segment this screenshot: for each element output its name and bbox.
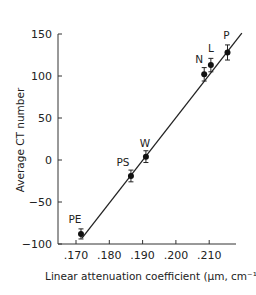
point-label: N bbox=[195, 53, 203, 65]
y-tick-label: 0 bbox=[45, 154, 52, 167]
data-point-n: N bbox=[195, 53, 207, 81]
x-tick-label: .190 bbox=[130, 249, 155, 262]
x-tick-label: .170 bbox=[64, 249, 89, 262]
point-marker bbox=[208, 62, 214, 68]
x-axis-title: Linear attenuation coefficient (µm, cm⁻¹… bbox=[45, 270, 256, 282]
data-point-l: L bbox=[208, 42, 214, 72]
x-tick-label: .200 bbox=[164, 249, 189, 262]
data-point-w: W bbox=[140, 137, 151, 163]
y-tick-label: 150 bbox=[31, 28, 52, 41]
data-point-pe: PE bbox=[69, 213, 84, 239]
point-marker bbox=[128, 173, 134, 179]
data-points: PEPSWNLP bbox=[69, 29, 231, 238]
x-tick-label: .180 bbox=[97, 249, 122, 262]
scatter-chart: 150100500−50−100.170.180.190.200.210 PEP… bbox=[0, 0, 256, 295]
point-marker bbox=[143, 154, 149, 160]
y-tick-label: −50 bbox=[29, 196, 52, 209]
point-marker bbox=[78, 231, 84, 237]
y-axis-title: Average CT number bbox=[14, 87, 26, 192]
x-tick-label: .210 bbox=[197, 249, 222, 262]
point-label: W bbox=[140, 137, 151, 149]
fit-line bbox=[82, 33, 242, 238]
axes: 150100500−50−100.170.180.190.200.210 bbox=[22, 28, 236, 262]
point-label: PS bbox=[116, 156, 129, 168]
point-marker bbox=[201, 71, 207, 77]
point-label: L bbox=[208, 42, 214, 54]
y-tick-label: −100 bbox=[22, 238, 52, 251]
point-label: P bbox=[223, 29, 229, 41]
data-point-ps: PS bbox=[116, 156, 134, 182]
y-tick-label: 50 bbox=[38, 112, 52, 125]
point-marker bbox=[225, 49, 231, 55]
point-label: PE bbox=[69, 213, 82, 225]
y-tick-label: 100 bbox=[31, 70, 52, 83]
